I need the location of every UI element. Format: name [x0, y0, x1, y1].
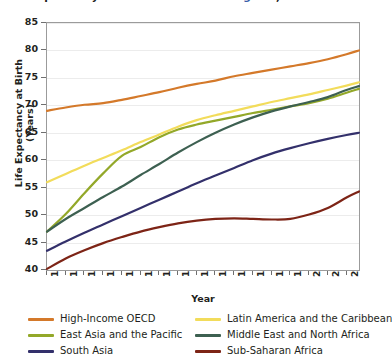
legend-swatch	[28, 334, 54, 337]
y-axis-tick-label: 50	[4, 208, 38, 219]
chart-title-strip: Life Expectancy at Birth in Six World Re…	[0, 0, 388, 7]
y-axis-tick-label: 80	[4, 43, 38, 54]
series-lines	[47, 23, 359, 270]
series-line	[47, 82, 359, 182]
y-axis-label: Life Expectancy at Birth (Years)	[13, 43, 35, 203]
legend-swatch	[28, 350, 54, 353]
y-axis-tick-label: 60	[4, 153, 38, 164]
y-axis-tick-label: 75	[4, 71, 38, 82]
series-line	[47, 86, 359, 231]
y-axis-tick-label: 70	[4, 98, 38, 109]
legend: High-Income OECDEast Asia and the Pacifi…	[0, 312, 388, 359]
legend-swatch	[195, 334, 221, 337]
title-accent: in Six World Regions	[152, 0, 276, 2]
y-axis-tick-label: 55	[4, 181, 38, 192]
legend-swatch	[28, 318, 54, 321]
legend-swatch	[195, 350, 221, 353]
x-axis-label: Year	[46, 293, 360, 304]
legend-item-label: Sub-Saharan Africa	[227, 344, 323, 358]
page-title: Life Expectancy at Birth in Six World Re…	[4, 0, 347, 2]
title-prefix: Life Expectancy at Birth	[4, 0, 152, 2]
legend-item-label: Latin America and the Caribbean	[227, 312, 392, 326]
y-axis-tick-label: 40	[4, 263, 38, 274]
legend-item-label: East Asia and the Pacific	[60, 328, 182, 342]
series-line	[47, 133, 359, 251]
legend-item-label: High-Income OECD	[60, 312, 155, 326]
plot-frame	[46, 22, 360, 271]
legend-item-label: South Asia	[60, 344, 113, 358]
legend-swatch	[195, 318, 221, 321]
title-suffix: , 1960-2010	[276, 0, 348, 2]
y-axis-tick-label: 65	[4, 126, 38, 137]
y-axis-tick-label: 45	[4, 236, 38, 247]
plot-area: Life Expectancy at Birth (Years) 4045505…	[0, 7, 388, 310]
legend-item-label: Middle East and North Africa	[227, 328, 370, 342]
y-axis-tick-label: 85	[4, 16, 38, 27]
series-line	[47, 89, 359, 232]
